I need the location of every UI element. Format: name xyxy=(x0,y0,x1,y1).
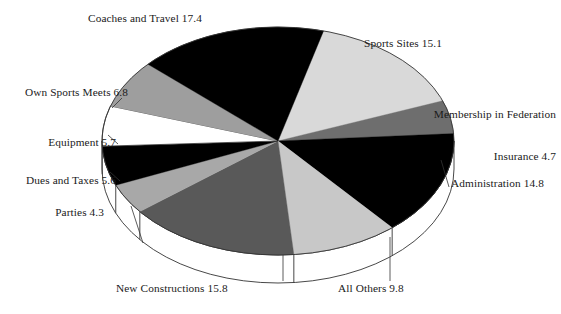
pie-chart: Coaches and Travel 17.4 Sports Sites 15.… xyxy=(0,0,561,314)
slice-label-all-others: All Others 9.8 xyxy=(338,281,404,295)
slice-label-own-sports-meets: Own Sports Meets 6.8 xyxy=(6,85,128,99)
slice-label-sports-sites: Sports Sites 15.1 xyxy=(364,36,442,50)
slice-label-membership-in-federation-insurance: Membership in Federation Insurance 4.7 xyxy=(408,79,556,191)
slice-label-equipment: Equipment 5.7 xyxy=(6,135,116,149)
slice-label-new-constructions: New Constructions 15.8 xyxy=(116,281,228,295)
slice-label-membership-line-2: Insurance 4.7 xyxy=(408,149,556,163)
slice-label-coaches-and-travel: Coaches and Travel 17.4 xyxy=(88,11,202,25)
slice-label-parties: Parties 4.3 xyxy=(6,205,104,219)
slice-label-administration: Administration 14.8 xyxy=(451,176,544,190)
slice-label-dues-and-taxes: Dues and Taxes 5.6 xyxy=(6,173,116,187)
pie-top-surface xyxy=(102,27,454,255)
slice-label-membership-line-1: Membership in Federation xyxy=(408,107,556,121)
